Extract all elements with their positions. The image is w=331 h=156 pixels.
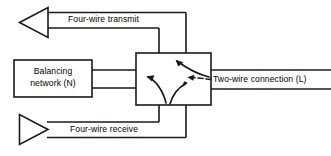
balancing-network-label-line2: network (N)	[30, 78, 76, 88]
receive-arrowhead-icon	[20, 115, 49, 145]
label-balancing-network: Balancing network (N)	[16, 66, 90, 89]
balancing-network-label-line1: Balancing	[34, 66, 73, 76]
hybrid-circuit-diagram: Four-wire transmit Four-wire receive Two…	[0, 0, 331, 156]
transmit-arrowhead-icon	[20, 8, 49, 38]
label-four-wire-receive: Four-wire receive	[70, 124, 138, 134]
balancing-network-leads	[92, 70, 136, 88]
label-four-wire-transmit: Four-wire transmit	[68, 14, 139, 24]
label-two-wire-connection: Two-wire connection (L)	[213, 74, 307, 84]
